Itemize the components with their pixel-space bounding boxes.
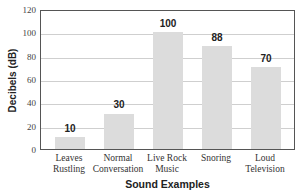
y-tick: 80	[18, 52, 36, 62]
x-axis-label: Sound Examples	[40, 178, 295, 190]
bar-snoring	[202, 46, 232, 149]
x-tick-line: Music	[135, 164, 199, 175]
x-tick-line: Television	[233, 164, 297, 175]
bar-loud-television	[251, 67, 281, 149]
y-tick: 40	[18, 98, 36, 108]
y-tick: 60	[18, 75, 36, 85]
y-tick: 0	[18, 145, 36, 155]
x-tick: Loud Television	[233, 153, 297, 175]
y-axis-label: Decibels (dB)	[7, 41, 18, 121]
y-tick: 120	[18, 5, 36, 15]
data-label: 10	[50, 123, 90, 134]
bar-leaves-rustling	[55, 137, 85, 149]
y-tick: 100	[18, 28, 36, 38]
plot-area: 10 30 100 88 70	[40, 10, 295, 150]
x-tick-line: Loud	[233, 153, 297, 164]
data-label: 70	[246, 53, 286, 64]
bar-normal-conversation	[104, 114, 134, 149]
data-label: 30	[99, 99, 139, 110]
data-label: 88	[197, 32, 237, 43]
data-label: 100	[148, 18, 188, 29]
bar-live-rock-music	[153, 32, 183, 149]
y-tick: 20	[18, 122, 36, 132]
